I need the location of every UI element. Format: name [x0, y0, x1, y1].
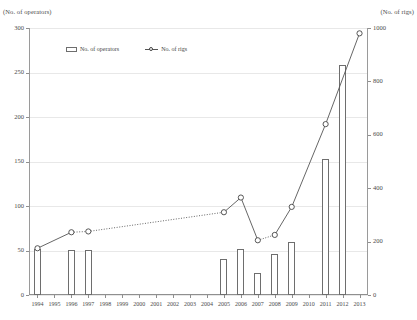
x-axis-tick-mark [173, 295, 174, 298]
x-axis-tick-mark [54, 295, 55, 298]
line-circle-swatch-icon [145, 47, 158, 52]
line-segment [275, 207, 292, 235]
line-marker [221, 210, 226, 215]
right-axis-tick-mark [368, 81, 371, 82]
line-marker [289, 204, 294, 209]
left-tick-label: 0 [2, 292, 24, 299]
line-segment [326, 33, 360, 124]
right-axis-tick-mark [368, 135, 371, 136]
legend-item-operators: No. of operators [66, 46, 119, 52]
line-segment [37, 232, 71, 248]
line-marker [69, 230, 74, 235]
x-axis-tick-mark [343, 295, 344, 298]
bar-swatch-icon [66, 47, 77, 52]
line-segment [292, 124, 326, 207]
right-tick-label: 800 [373, 78, 397, 85]
left-tick-label: 200 [2, 114, 24, 121]
x-tick-label: 2013 [347, 301, 373, 307]
right-axis-tick-mark [368, 295, 371, 296]
left-tick-label: 250 [2, 69, 24, 76]
left-tick-label: 150 [2, 158, 24, 165]
right-tick-label: 600 [373, 131, 397, 138]
x-axis-tick-mark [88, 295, 89, 298]
left-axis-tick-mark [26, 295, 29, 296]
x-axis-tick-mark [258, 295, 259, 298]
x-axis-tick-mark [190, 295, 191, 298]
x-axis-tick-mark [241, 295, 242, 298]
line-marker [272, 232, 277, 237]
x-axis-tick-mark [139, 295, 140, 298]
x-axis-tick-mark [224, 295, 225, 298]
gridline [29, 295, 368, 296]
line-marker [86, 229, 91, 234]
right-tick-label: 200 [373, 238, 397, 245]
plot-area [29, 28, 368, 295]
x-axis-tick-mark [156, 295, 157, 298]
marker-circle-icon [149, 47, 153, 51]
line-series-rigs [29, 28, 368, 295]
x-axis-tick-mark [309, 295, 310, 298]
x-axis-tick-mark [105, 295, 106, 298]
chart-legend: No. of operators No. of rigs [66, 46, 187, 52]
line-segment [88, 212, 224, 231]
right-tick-label: 0 [373, 292, 397, 299]
line-segment [224, 198, 241, 213]
left-tick-label: 50 [2, 247, 24, 254]
right-axis-tick-mark [368, 188, 371, 189]
left-tick-label: 300 [2, 25, 24, 32]
x-axis-tick-mark [360, 295, 361, 298]
line-marker [35, 246, 40, 251]
line-marker [323, 122, 328, 127]
legend-item-rigs: No. of rigs [145, 46, 187, 52]
right-tick-label: 400 [373, 185, 397, 192]
x-axis-tick-mark [292, 295, 293, 298]
line-segment [241, 198, 258, 241]
left-axis-caption: (No. of operators) [3, 8, 52, 15]
line-marker [357, 31, 362, 36]
x-axis-tick-mark [122, 295, 123, 298]
right-axis-caption: (No. of rigs) [380, 8, 414, 15]
right-axis-tick-mark [368, 28, 371, 29]
right-tick-label: 1000 [373, 25, 397, 32]
x-axis-tick-mark [71, 295, 72, 298]
legend-label-rigs: No. of rigs [161, 46, 187, 52]
right-axis-tick-mark [368, 242, 371, 243]
chart-container: (No. of operators) (No. of rigs) 0501001… [0, 0, 417, 320]
line-marker [255, 238, 260, 243]
x-axis-tick-mark [326, 295, 327, 298]
line-marker [238, 195, 243, 200]
x-axis-tick-mark [207, 295, 208, 298]
x-axis-tick-mark [275, 295, 276, 298]
legend-label-operators: No. of operators [80, 46, 119, 52]
left-tick-label: 100 [2, 203, 24, 210]
x-axis-tick-mark [37, 295, 38, 298]
